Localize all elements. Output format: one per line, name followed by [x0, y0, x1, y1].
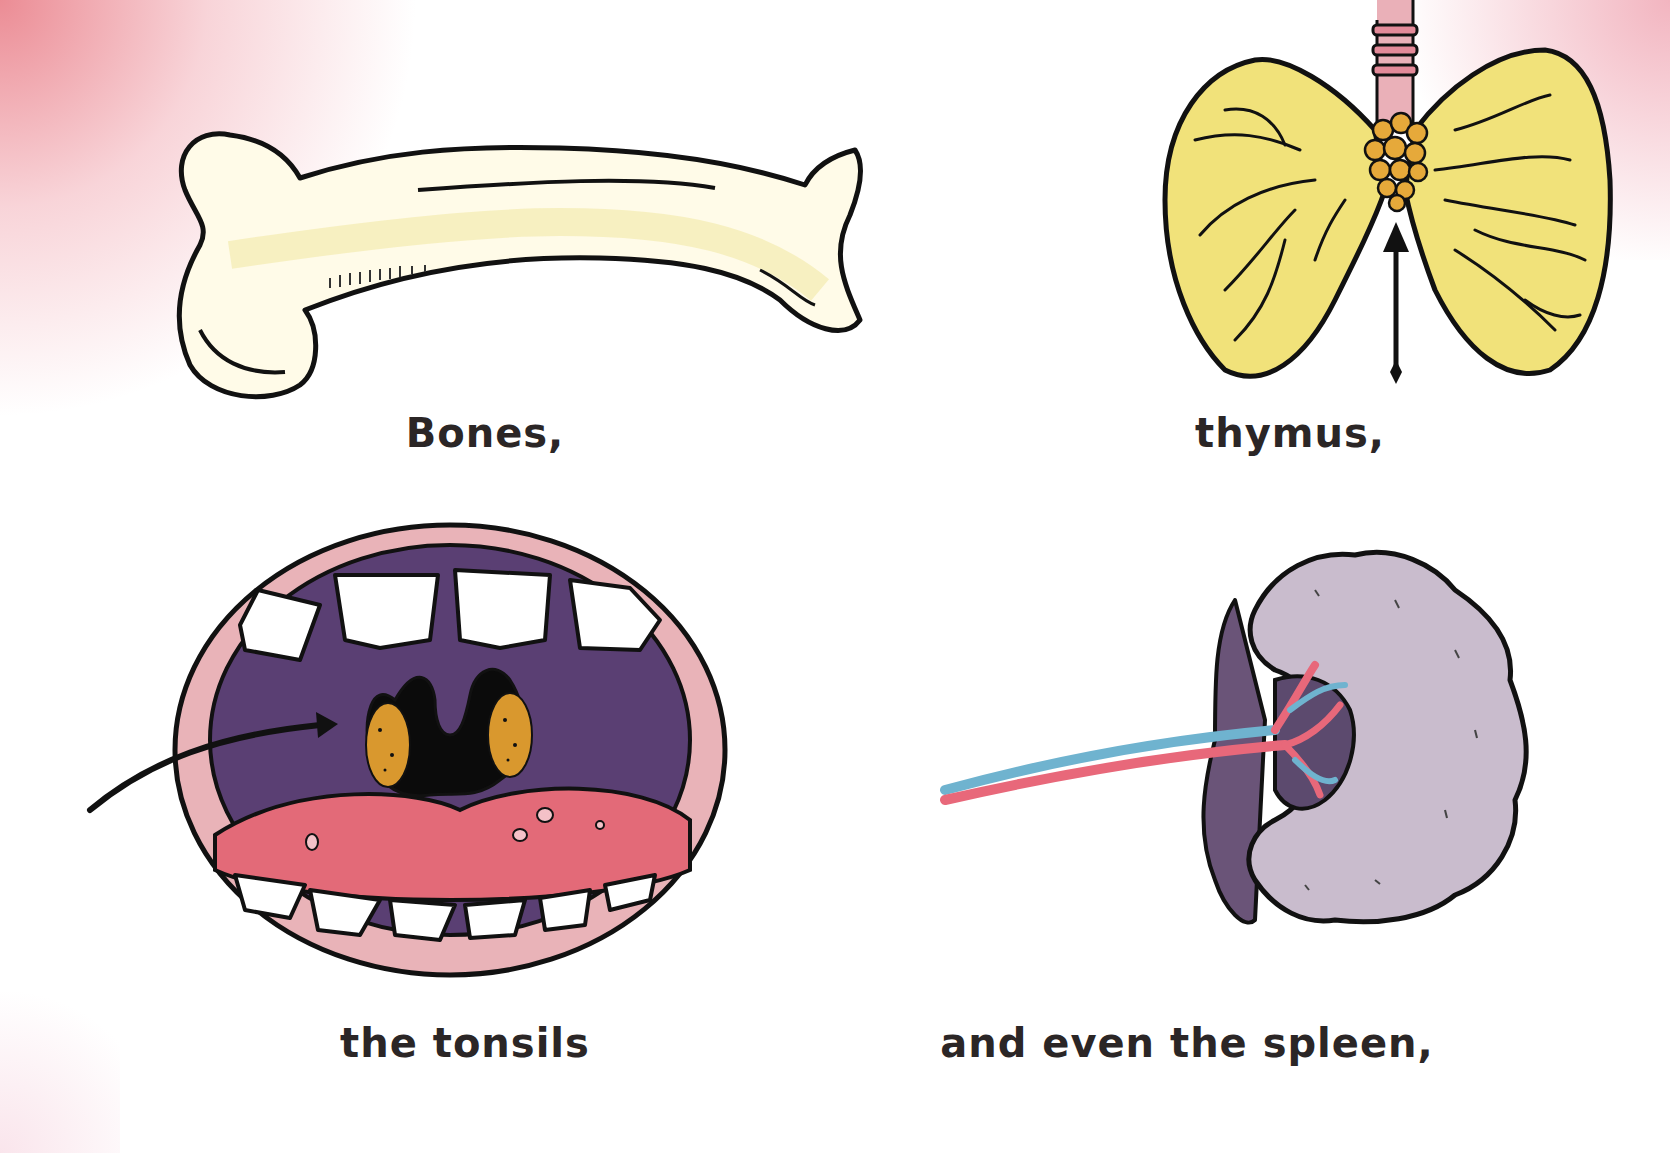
caption-spleen: and even the spleen, [940, 1020, 1434, 1066]
caption-bones: Bones, [406, 410, 565, 456]
panel-tonsils: the tonsils [0, 480, 835, 1153]
panel-bones: Bones, [0, 0, 835, 480]
panel-spleen: and even the spleen, [835, 480, 1670, 1153]
caption-tonsils: the tonsils [340, 1020, 590, 1066]
thymus-icon [835, 0, 1670, 480]
caption-thymus: thymus, [1195, 410, 1385, 456]
panel-thymus: thymus, [835, 0, 1670, 480]
bone-icon [0, 0, 835, 480]
